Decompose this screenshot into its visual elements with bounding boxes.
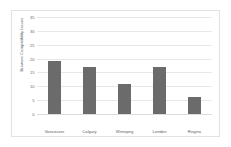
bar-chart-figure: Browser Compatibility Issues 05101520253…: [11, 10, 220, 137]
x-tick-label: London: [153, 129, 167, 134]
y-tick-label: 0: [32, 112, 34, 117]
y-tick-label: 30: [30, 28, 35, 33]
gridline: [37, 114, 212, 115]
bar[interactable]: [188, 97, 201, 114]
x-tick-label: Regina: [188, 129, 201, 134]
y-tick-label: 20: [30, 56, 35, 61]
x-label-slot: Winnipeg: [107, 119, 142, 127]
y-tick-label: 10: [30, 84, 35, 89]
bar[interactable]: [48, 61, 61, 114]
bar-slot: [107, 17, 142, 114]
y-axis-title: Browser Compatibility Issues: [17, 5, 26, 85]
y-tick-label: 5: [32, 98, 34, 103]
x-axis-tick-labels: VancouverCalgaryWinnipegLondonRegina: [37, 119, 212, 127]
x-label-slot: London: [142, 119, 177, 127]
bar-slot: [37, 17, 72, 114]
x-label-slot: Calgary: [72, 119, 107, 127]
bar[interactable]: [153, 67, 166, 114]
x-label-slot: Regina: [177, 119, 212, 127]
bars-layer: [37, 17, 212, 114]
x-tick-label: Vancouver: [45, 129, 65, 134]
y-tick-label: 35: [30, 15, 35, 20]
y-tick-label: 15: [30, 70, 35, 75]
x-tick-label: Calgary: [82, 129, 96, 134]
x-label-slot: Vancouver: [37, 119, 72, 127]
y-tick-label: 25: [30, 42, 35, 47]
bar[interactable]: [83, 67, 96, 114]
bar[interactable]: [118, 84, 131, 114]
x-tick-label: Winnipeg: [116, 129, 133, 134]
bar-slot: [72, 17, 107, 114]
bar-slot: [177, 17, 212, 114]
plot-area: 05101520253035: [37, 17, 212, 114]
bar-slot: [142, 17, 177, 114]
